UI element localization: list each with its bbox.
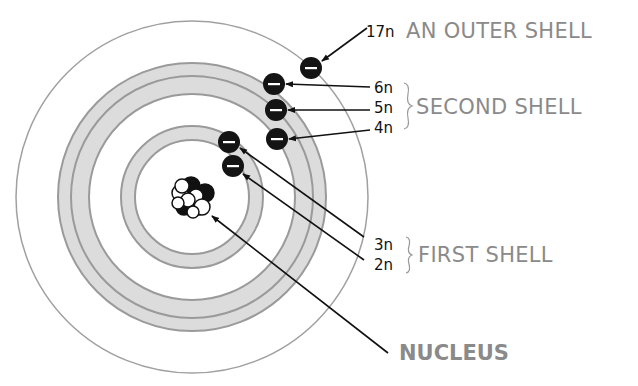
electron-5n bbox=[265, 99, 287, 121]
brace-second-shell bbox=[404, 83, 412, 129]
label-6n: 6n bbox=[374, 79, 393, 97]
label-4n: 4n bbox=[374, 119, 393, 137]
electron-4n bbox=[266, 128, 288, 150]
label-3n: 3n bbox=[374, 236, 393, 254]
label-first-shell: FIRST SHELL bbox=[418, 243, 553, 267]
label-second-shell: SECOND SHELL bbox=[416, 95, 582, 119]
label-outer-shell: AN OUTER SHELL bbox=[406, 19, 592, 43]
label-nucleus: NUCLEUS bbox=[399, 341, 509, 365]
electron-3n bbox=[218, 131, 240, 153]
label-17n: 17n bbox=[366, 23, 395, 41]
electron-2n bbox=[222, 155, 244, 177]
electron-17n bbox=[300, 57, 322, 79]
atom-diagram: 17n 6n 5n 4n 3n 2n AN OUTER SHELL SECOND… bbox=[0, 0, 638, 386]
brace-first-shell bbox=[406, 237, 412, 273]
electron-6n bbox=[263, 73, 285, 95]
label-5n: 5n bbox=[374, 99, 393, 117]
label-2n: 2n bbox=[374, 256, 393, 274]
